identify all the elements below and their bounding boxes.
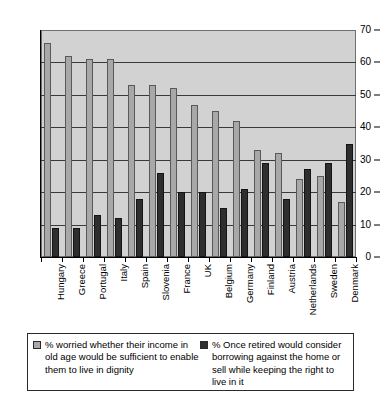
bar-hungary-series-1 bbox=[52, 228, 59, 257]
bar-uk-series-1 bbox=[199, 192, 206, 257]
x-axis-label-uk: UK bbox=[203, 264, 213, 277]
bar-germany-series-1 bbox=[241, 189, 248, 257]
x-tick-1 bbox=[62, 257, 63, 262]
y-tick-label-0: 0 bbox=[365, 252, 371, 262]
y-tick-mark-70 bbox=[374, 30, 380, 31]
bar-belgium-series-0 bbox=[212, 111, 219, 257]
bar-finland-series-0 bbox=[254, 150, 261, 257]
x-axis-label-finland: Finland bbox=[266, 264, 276, 295]
legend-item-1: % Once retired would consider borrowing … bbox=[200, 339, 349, 386]
x-tick-7 bbox=[188, 257, 189, 262]
legend-label-0: % worried whether their income in old ag… bbox=[45, 339, 200, 376]
y-tick-label-30: 30 bbox=[360, 155, 371, 165]
legend-item-0: % worried whether their income in old ag… bbox=[33, 339, 200, 386]
legend-label-1: % Once retired would consider borrowing … bbox=[212, 339, 349, 389]
x-axis-label-austria: Austria bbox=[287, 264, 297, 294]
y-tick-label-60: 60 bbox=[360, 57, 371, 67]
x-tick-8 bbox=[209, 257, 210, 262]
y-tick-mark-0 bbox=[374, 257, 380, 258]
y-tick-mark-10 bbox=[374, 224, 380, 225]
bar-slovenia-series-0 bbox=[149, 85, 156, 257]
y-tick-label-70: 70 bbox=[360, 25, 371, 35]
x-axis-line bbox=[40, 257, 357, 258]
x-tick-9 bbox=[230, 257, 231, 262]
x-axis-label-germany: Germany bbox=[245, 264, 255, 303]
chart-legend: % worried whether their income in old ag… bbox=[27, 333, 354, 391]
x-axis-label-belgium: Belgium bbox=[224, 264, 234, 298]
legend-swatch-light-icon bbox=[33, 341, 41, 349]
legend-swatch-dark-icon bbox=[200, 341, 208, 349]
bar-groups bbox=[41, 30, 356, 257]
x-tick-12 bbox=[293, 257, 294, 262]
x-tick-2 bbox=[83, 257, 84, 262]
x-axis-label-portugal: Portugal bbox=[98, 264, 108, 299]
bar-sweden-series-0 bbox=[317, 176, 324, 257]
y-tick-label-20: 20 bbox=[360, 187, 371, 197]
x-axis-label-denmark: Denmark bbox=[350, 264, 360, 303]
y-tick-mark-50 bbox=[374, 94, 380, 95]
bar-netherlands-series-0 bbox=[296, 179, 303, 257]
bar-portugal-series-0 bbox=[86, 59, 93, 257]
chart-screenshot: 010203040506070 HungaryGreecePortugalIta… bbox=[0, 0, 380, 403]
y-tick-label-40: 40 bbox=[360, 122, 371, 132]
y-tick-label-10: 10 bbox=[360, 220, 371, 230]
x-tick-end bbox=[356, 257, 357, 262]
x-tick-11 bbox=[272, 257, 273, 262]
y-tick-label-50: 50 bbox=[360, 90, 371, 100]
bar-denmark-series-1 bbox=[346, 144, 353, 258]
x-axis-label-italy: Italy bbox=[119, 264, 129, 281]
bar-slovenia-series-1 bbox=[157, 173, 164, 257]
y-tick-mark-20 bbox=[374, 192, 380, 193]
x-tick-4 bbox=[125, 257, 126, 262]
bar-france-series-0 bbox=[170, 88, 177, 257]
x-axis-label-hungary: Hungary bbox=[56, 264, 66, 300]
bar-hungary-series-0 bbox=[44, 43, 51, 257]
x-tick-6 bbox=[167, 257, 168, 262]
y-tick-mark-30 bbox=[374, 159, 380, 160]
bar-italy-series-0 bbox=[107, 59, 114, 257]
bar-belgium-series-1 bbox=[220, 208, 227, 257]
bar-denmark-series-0 bbox=[338, 202, 345, 257]
x-axis-label-sweden: Sweden bbox=[329, 264, 339, 298]
bar-germany-series-0 bbox=[233, 121, 240, 257]
x-tick-0 bbox=[41, 257, 42, 262]
x-axis-label-spain: Spain bbox=[140, 264, 150, 288]
bar-sweden-series-1 bbox=[325, 163, 332, 257]
bar-spain-series-1 bbox=[136, 199, 143, 257]
x-axis-label-france: France bbox=[182, 264, 192, 294]
bar-austria-series-1 bbox=[283, 199, 290, 257]
x-tick-10 bbox=[251, 257, 252, 262]
x-tick-13 bbox=[314, 257, 315, 262]
bar-portugal-series-1 bbox=[94, 215, 101, 257]
bar-greece-series-1 bbox=[73, 228, 80, 257]
bar-italy-series-1 bbox=[115, 218, 122, 257]
x-axis-label-netherlands: Netherlands bbox=[308, 264, 318, 315]
bar-france-series-1 bbox=[178, 192, 185, 257]
y-tick-mark-40 bbox=[374, 127, 380, 128]
x-tick-5 bbox=[146, 257, 147, 262]
bar-finland-series-1 bbox=[262, 163, 269, 257]
bar-spain-series-0 bbox=[128, 85, 135, 257]
x-tick-14 bbox=[335, 257, 336, 262]
bar-chart: 010203040506070 HungaryGreecePortugalIta… bbox=[0, 0, 380, 330]
bar-greece-series-0 bbox=[65, 56, 72, 257]
x-tick-3 bbox=[104, 257, 105, 262]
y-tick-mark-60 bbox=[374, 62, 380, 63]
bar-uk-series-0 bbox=[191, 105, 198, 257]
x-axis-labels: HungaryGreecePortugalItalySpainSloveniaF… bbox=[41, 264, 356, 330]
bar-netherlands-series-1 bbox=[304, 169, 311, 257]
x-axis-label-slovenia: Slovenia bbox=[161, 264, 171, 300]
x-axis-label-greece: Greece bbox=[77, 264, 87, 295]
bar-austria-series-0 bbox=[275, 153, 282, 257]
